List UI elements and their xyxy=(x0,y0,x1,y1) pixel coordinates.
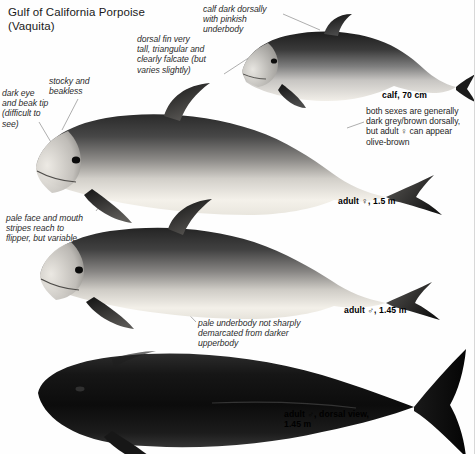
caption-adult-female: adult ♀, 1.5 m xyxy=(338,196,396,206)
caption-calf: calf, 70 cm xyxy=(382,90,427,100)
annotation-dorsal-fin: dorsal fin very tall, triangular and cle… xyxy=(137,34,206,75)
specimen-dorsal-view xyxy=(16,345,471,450)
caption-dorsal-view: adult ♂, dorsal view, 1.45 m xyxy=(284,409,369,430)
field-guide-plate: Gulf of California Porpoise (Vaquita) do… xyxy=(0,0,475,454)
page-title: Gulf of California Porpoise (Vaquita) xyxy=(8,5,145,33)
annotation-stocky-beakless: stocky and beakless xyxy=(49,76,90,96)
caption-adult-male: adult ♂, 1.45 m xyxy=(344,305,406,315)
